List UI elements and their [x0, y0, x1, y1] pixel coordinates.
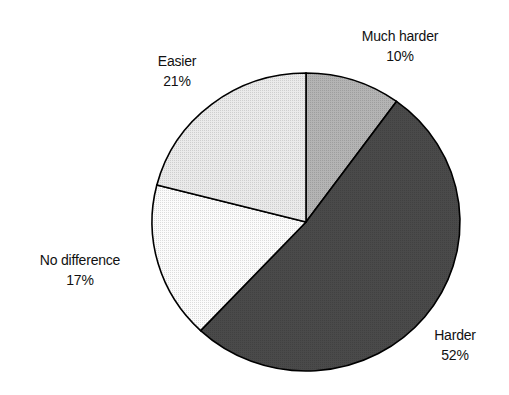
- label-harder-pct: 52%: [415, 345, 495, 365]
- label-no-difference-pct: 17%: [15, 270, 145, 290]
- label-easier-pct: 21%: [142, 71, 212, 91]
- label-harder-name: Harder: [415, 325, 495, 345]
- label-much-harder-pct: 10%: [345, 46, 455, 66]
- label-easier-name: Easier: [142, 51, 212, 71]
- label-harder: Harder 52%: [415, 325, 495, 365]
- label-no-difference: No difference 17%: [15, 250, 145, 290]
- label-no-difference-name: No difference: [15, 250, 145, 270]
- label-easier: Easier 21%: [142, 51, 212, 91]
- label-much-harder-name: Much harder: [345, 26, 455, 46]
- label-much-harder: Much harder 10%: [345, 26, 455, 66]
